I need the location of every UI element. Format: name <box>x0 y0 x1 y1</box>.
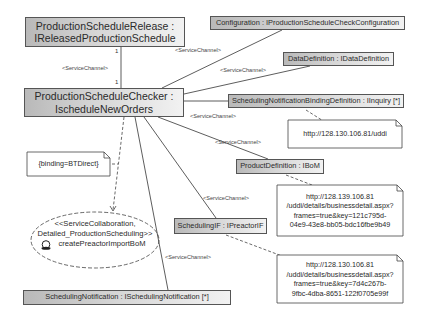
dashed-schedulingif-preactorurl <box>226 235 282 256</box>
connector-label-schedulingif: <ServiceChannel> <box>203 195 249 201</box>
multiplicity-bottom: 1 <box>115 79 118 85</box>
connector-label-productdef: <ServiceChannel> <box>215 139 261 145</box>
component-label: SchedulingNotificationBindingDefinition … <box>232 97 400 106</box>
note-line: frames=true&key=121c795d- <box>294 211 387 221</box>
note-text: http://128.130.106.81/uddi <box>303 129 387 139</box>
component-binding-definition[interactable]: SchedulingNotificationBindingDefinition … <box>228 94 404 108</box>
connector-label-notification: <ServiceChannel> <box>165 254 211 260</box>
collaboration-stereotype: <<ServiceCollaboration, <box>31 219 159 229</box>
component-scheduling-if[interactable]: SchedulingIF : IPreactorIF <box>174 218 267 234</box>
connector-label-datadefinition: <ServiceChannel> <box>220 67 266 73</box>
note-line: frames=true&key=7d4c267b- <box>294 279 387 289</box>
component-data-definition[interactable]: DataDefinition : IDataDefinition <box>283 52 394 66</box>
note-line: http://128.139.106.81 <box>306 192 374 202</box>
connector-checker-productdef <box>158 117 268 159</box>
component-scheduling-notification[interactable]: SchedulingNotification : ISchedulingNoti… <box>23 290 231 305</box>
dashed-productdef-bomurl <box>286 175 312 185</box>
collaboration-name: Detailed_ProductionScheduling>> <box>31 229 159 239</box>
note-line: http://128.130.106.81 <box>306 260 374 270</box>
connector-label-release: <ServiceChannel> <box>62 65 108 71</box>
component-title: ProductionScheduleRelease : <box>36 20 174 32</box>
operation-label: createPreactorImportBoM <box>45 239 146 248</box>
component-interface: IscheduleNewOrders <box>55 103 153 115</box>
component-label: Configuration : IProductionScheduleCheck… <box>216 19 399 28</box>
note-bom-url: http://128.139.106.81 /uddi/details/busi… <box>277 185 403 236</box>
connector-label-bindingdef: <ServiceChannel> <box>190 113 236 119</box>
note-binding: {binding=BTDirect} <box>27 152 110 176</box>
component-product-definition[interactable]: ProductDefinition : IBoM <box>236 159 324 174</box>
collaboration-operation: createPreactorImportBoM <box>31 239 159 249</box>
multiplicity-top: 1 <box>115 48 118 54</box>
component-production-schedule-release[interactable]: ProductionScheduleRelease : IReleasedPro… <box>25 17 185 47</box>
service-collaboration[interactable]: <<ServiceCollaboration, Detailed_Product… <box>31 219 159 249</box>
note-line: 04e9-43e8-bb05-bdc16fbe9b49 <box>290 220 391 230</box>
note-text: {binding=BTDirect} <box>38 159 98 169</box>
component-label: SchedulingIF : IPreactorIF <box>178 222 264 231</box>
component-label: SchedulingNotification : ISchedulingNoti… <box>45 293 209 302</box>
component-label: ProductDefinition : IBoM <box>240 162 320 171</box>
connector-checker-notification <box>135 117 168 290</box>
note-line: /uddi/details/businessdetail.aspx? <box>286 270 393 280</box>
component-interface: IReleasedProductionSchedule <box>34 32 175 44</box>
uml-diagram: ProductionScheduleRelease : IReleasedPro… <box>0 0 423 323</box>
component-configuration[interactable]: Configuration : IProductionScheduleCheck… <box>210 16 405 30</box>
component-title: ProductionScheduleChecker : <box>35 90 174 102</box>
component-production-schedule-checker[interactable]: ProductionScheduleChecker : IscheduleNew… <box>24 88 184 117</box>
dashed-checker-collaboration <box>113 117 124 210</box>
note-line: 9fbc-4dba-8651-122f0705e99f <box>292 289 389 299</box>
connector-checker-schedulingif <box>144 117 216 218</box>
note-uddi: http://128.130.106.81/uddi <box>288 120 402 148</box>
collaboration-icon <box>41 240 52 250</box>
connector-label-configuration: <ServiceChannel> <box>175 47 221 53</box>
component-label: DataDefinition : IDataDefinition <box>288 55 389 64</box>
note-line: /uddi/details/businessdetail.aspx? <box>286 201 393 211</box>
note-preactor-url: http://128.130.106.81 /uddi/details/busi… <box>277 255 403 303</box>
